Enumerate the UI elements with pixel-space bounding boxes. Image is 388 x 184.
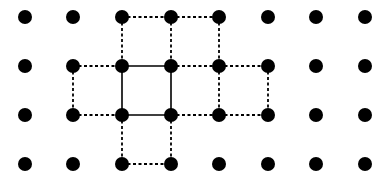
grid-dot — [164, 108, 178, 122]
grid-dot — [212, 59, 226, 73]
grid-dot — [261, 108, 275, 122]
grid-dot — [212, 108, 226, 122]
grid-dot — [115, 10, 129, 24]
grid-dot — [261, 157, 275, 171]
grid-dot — [261, 10, 275, 24]
grid-dot — [66, 108, 80, 122]
grid-dot — [358, 157, 372, 171]
grid-dots — [18, 10, 372, 171]
grid-dot — [18, 157, 32, 171]
grid-dot — [66, 157, 80, 171]
grid-dot — [309, 157, 323, 171]
grid-dot — [358, 108, 372, 122]
solid-square — [122, 66, 171, 115]
grid-dot — [309, 10, 323, 24]
grid-dot — [66, 59, 80, 73]
grid-dot — [115, 157, 129, 171]
grid-dot — [164, 157, 178, 171]
grid-dot — [164, 10, 178, 24]
grid-dot — [66, 10, 80, 24]
grid-dot — [115, 108, 129, 122]
grid-dot — [18, 59, 32, 73]
grid-dot — [18, 10, 32, 24]
grid-dot — [309, 108, 323, 122]
grid-dot — [18, 108, 32, 122]
grid-dot — [358, 10, 372, 24]
grid-dot — [164, 59, 178, 73]
grid-dot — [358, 59, 372, 73]
dot-grid-diagram — [0, 0, 388, 184]
grid-dot — [212, 10, 226, 24]
grid-dot — [309, 59, 323, 73]
grid-dot — [212, 157, 226, 171]
grid-dot — [115, 59, 129, 73]
grid-dot — [261, 59, 275, 73]
solid-center-square — [122, 66, 171, 115]
